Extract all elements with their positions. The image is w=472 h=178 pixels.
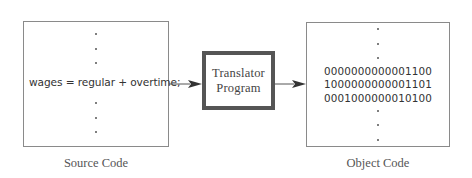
arrow-translator-to-object — [275, 80, 306, 88]
translation-diagram: wages = regular + overtime; Source Code … — [0, 0, 472, 178]
arrow-source-to-translator — [169, 80, 202, 88]
flow-arrows — [0, 0, 472, 178]
